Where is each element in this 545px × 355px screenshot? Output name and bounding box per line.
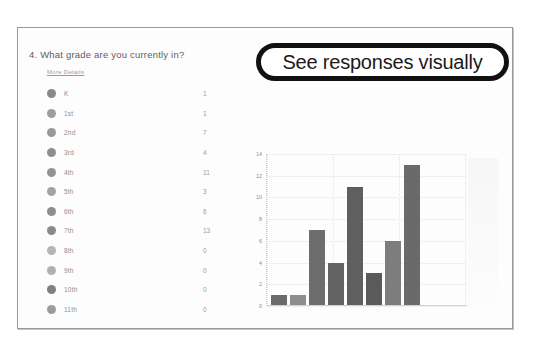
grade-count: 6 xyxy=(203,208,225,215)
grade-result-row: 10th0 xyxy=(47,280,225,300)
grade-count: 4 xyxy=(203,149,225,156)
grade-label: 3rd xyxy=(64,149,203,156)
grade-label: 10th xyxy=(64,286,203,293)
bullet-dot-icon xyxy=(47,226,56,235)
slide-frame: See responses visually 4. What grade are… xyxy=(17,27,513,329)
grade-results-list: K11st12nd73rd44th115th36th67th138th09th0… xyxy=(47,84,225,319)
grade-result-row: 2nd7 xyxy=(47,123,225,143)
grade-result-row: 8th0 xyxy=(47,241,225,261)
grade-result-row: 9th0 xyxy=(47,260,225,280)
see-responses-visually-callout: See responses visually xyxy=(256,43,509,81)
grade-count: 1 xyxy=(203,110,225,117)
grade-label: 11th xyxy=(64,306,203,313)
grade-label: 2nd xyxy=(64,129,203,136)
grade-label: 5th xyxy=(64,188,203,195)
bullet-dot-icon xyxy=(47,305,56,314)
chart-bar xyxy=(404,165,420,306)
bullet-dot-icon xyxy=(47,148,56,157)
chart-x-axis-line xyxy=(267,305,467,306)
grade-label: K xyxy=(64,90,203,97)
chart-y-tick-label: 0 xyxy=(259,303,262,309)
bullet-dot-icon xyxy=(47,187,56,196)
grade-label: 9th xyxy=(64,267,203,274)
grade-label: 8th xyxy=(64,247,203,254)
callout-label: See responses visually xyxy=(282,51,482,74)
chart-bar xyxy=(328,263,344,306)
chart-y-tick-label: 12 xyxy=(256,173,262,179)
question-results-panel: 4. What grade are you currently in? More… xyxy=(29,49,234,319)
chart-y-tick-label: 6 xyxy=(259,238,262,244)
chart-gridline xyxy=(267,154,268,306)
chart-y-tick-label: 8 xyxy=(259,216,262,222)
question-title: 4. What grade are you currently in? xyxy=(29,49,234,60)
chart-bars xyxy=(271,154,461,306)
bullet-dot-icon xyxy=(47,89,56,98)
chart-bar xyxy=(309,230,325,306)
bullet-dot-icon xyxy=(47,128,56,137)
scan-artifact xyxy=(468,158,498,308)
more-details-link[interactable]: More Details xyxy=(47,69,84,75)
grade-result-row: 4th11 xyxy=(47,162,225,182)
chart-bar xyxy=(347,187,363,306)
chart-plot-area xyxy=(266,154,467,306)
chart-bar xyxy=(385,241,401,306)
grade-count: 3 xyxy=(203,188,225,195)
grade-result-row: 6th6 xyxy=(47,202,225,222)
chart-gridline xyxy=(267,306,467,307)
grade-count: 11 xyxy=(203,169,225,176)
grade-label: 1st xyxy=(64,110,203,117)
chart-y-axis: 02468101214 xyxy=(246,154,264,306)
grade-count: 0 xyxy=(203,306,225,313)
responses-bar-chart: 02468101214 xyxy=(246,154,501,324)
grade-result-row: 1st1 xyxy=(47,104,225,124)
chart-gridline xyxy=(465,154,466,306)
grade-result-row: 5th3 xyxy=(47,182,225,202)
grade-label: 6th xyxy=(64,208,203,215)
grade-label: 7th xyxy=(64,227,203,234)
grade-count: 1 xyxy=(203,90,225,97)
grade-count: 13 xyxy=(203,227,225,234)
bullet-dot-icon xyxy=(47,207,56,216)
grade-result-row: 7th13 xyxy=(47,221,225,241)
grade-count: 0 xyxy=(203,267,225,274)
chart-y-tick-label: 4 xyxy=(259,260,262,266)
chart-y-tick-label: 10 xyxy=(256,194,262,200)
grade-count: 0 xyxy=(203,247,225,254)
bullet-dot-icon xyxy=(47,285,56,294)
bullet-dot-icon xyxy=(47,168,56,177)
bullet-dot-icon xyxy=(47,109,56,118)
grade-result-row: K1 xyxy=(47,84,225,104)
grade-label: 4th xyxy=(64,169,203,176)
chart-bar xyxy=(366,273,382,306)
grade-count: 7 xyxy=(203,129,225,136)
bullet-dot-icon xyxy=(47,246,56,255)
chart-y-tick-label: 2 xyxy=(259,281,262,287)
chart-y-tick-label: 14 xyxy=(256,151,262,157)
bullet-dot-icon xyxy=(47,266,56,275)
grade-result-row: 3rd4 xyxy=(47,143,225,163)
grade-result-row: 11th0 xyxy=(47,300,225,320)
grade-count: 0 xyxy=(203,286,225,293)
